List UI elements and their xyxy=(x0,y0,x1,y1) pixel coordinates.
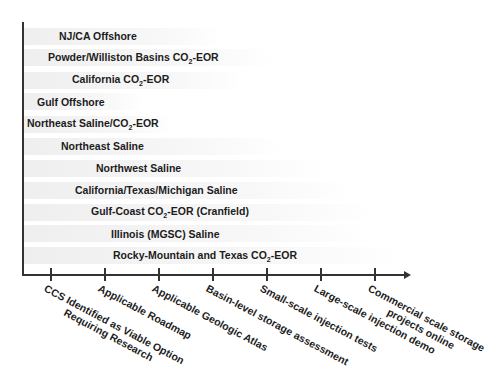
row-label: Gulf-Coast CO2-EOR (Cranfield) xyxy=(91,205,249,219)
x-axis-arrow-icon xyxy=(404,271,411,279)
x-tick xyxy=(104,268,106,281)
x-tick xyxy=(374,268,376,281)
row-label: Rocky-Mountain and Texas CO2-EOR xyxy=(113,249,297,263)
ccs-maturity-diagram: NJ/CA Offshore Powder/Williston Basins C… xyxy=(0,0,493,386)
x-tick xyxy=(212,268,214,281)
x-tick xyxy=(266,268,268,281)
row-label: California/Texas/Michigan Saline xyxy=(75,184,238,196)
row-label: Northwest Saline xyxy=(96,162,181,174)
row-label: Northeast Saline/CO2-EOR xyxy=(27,117,159,131)
row-label: California CO2-EOR xyxy=(72,73,169,87)
row-label: NJ/CA Offshore xyxy=(59,30,137,42)
y-axis-line xyxy=(22,22,24,276)
row-label: Powder/Williston Basins CO2-EOR xyxy=(48,51,219,65)
x-axis-line xyxy=(22,274,406,276)
row-label: Gulf Offshore xyxy=(37,96,105,108)
row-label: Illinois (MGSC) Saline xyxy=(111,228,220,240)
x-tick xyxy=(158,268,160,281)
x-tick xyxy=(50,268,52,281)
x-tick xyxy=(320,268,322,281)
row-label: Northeast Saline xyxy=(61,140,144,152)
